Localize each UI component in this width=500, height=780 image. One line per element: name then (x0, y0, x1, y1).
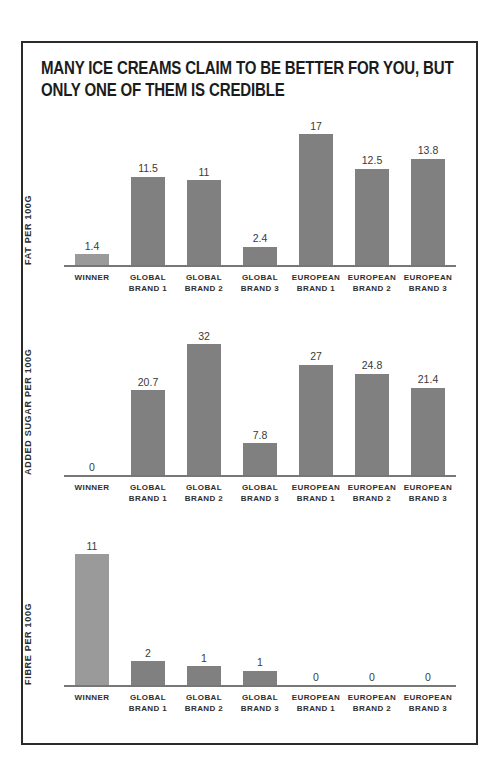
bar-slot: 17 (288, 113, 344, 265)
bar-slot: 13.8 (400, 113, 456, 265)
bar-slot: 27 (288, 323, 344, 475)
bar-value-label: 7.8 (253, 430, 268, 441)
bar-slot: 7.8 (232, 323, 288, 475)
bar-value-label: 27 (310, 351, 322, 362)
bar-slot: 20.7 (120, 323, 176, 475)
x-axis-category-label: GLOBALBRAND 3 (232, 477, 288, 517)
bar (299, 134, 333, 265)
x-axis-category-label: EUROPEANBRAND 2 (344, 267, 400, 307)
x-axis-category-label: WINNER (64, 477, 120, 517)
x-axis-category-label: EUROPEANBRAND 2 (344, 477, 400, 517)
y-axis-label: ADDED SUGAR PER 100G (23, 325, 33, 479)
bar-slot: 0 (400, 533, 456, 685)
x-axis-category-label: GLOBALBRAND 1 (120, 267, 176, 307)
bar-value-label: 0 (369, 672, 375, 683)
x-axis-labels: WINNERGLOBALBRAND 1GLOBALBRAND 2GLOBALBR… (64, 267, 456, 307)
bar-slot: 2 (120, 533, 176, 685)
bar (355, 374, 389, 475)
bar-value-label: 0 (313, 672, 319, 683)
poster-frame: MANY ICE CREAMS CLAIM TO BE BETTER FOR Y… (21, 41, 478, 745)
x-axis-category-label: GLOBALBRAND 2 (176, 267, 232, 307)
chart-fibre-per-100g: FIBRE PER 100G 11211000 WINNERGLOBALBRAN… (23, 527, 476, 733)
bar (411, 388, 445, 475)
bar-value-label: 24.8 (362, 360, 382, 371)
bar (243, 247, 277, 265)
bar-value-label: 21.4 (418, 374, 438, 385)
x-axis-category-label: EUROPEANBRAND 1 (288, 687, 344, 727)
bar-value-label: 11.5 (138, 163, 158, 174)
bar (243, 671, 277, 685)
bar-slot: 1.4 (64, 113, 120, 265)
bar (411, 159, 445, 265)
bar-slot: 0 (288, 533, 344, 685)
bar (131, 390, 165, 475)
bar-slot: 0 (64, 323, 120, 475)
bar-value-label: 1 (257, 657, 263, 668)
bar-value-label: 1.4 (85, 241, 100, 252)
bar-value-label: 13.8 (418, 145, 438, 156)
plot-area: 020.7327.82724.821.4 WINNERGLOBALBRAND 1… (64, 323, 456, 523)
bar (187, 344, 221, 475)
bar (75, 554, 109, 685)
bar (187, 666, 221, 685)
bar-value-label: 1 (201, 653, 207, 664)
bar (131, 661, 165, 685)
bar-slot: 1 (176, 533, 232, 685)
x-axis-category-label: GLOBALBRAND 1 (120, 477, 176, 517)
x-axis-category-label: EUROPEANBRAND 3 (400, 477, 456, 517)
bar-value-label: 32 (198, 331, 210, 342)
bar-slot: 0 (344, 533, 400, 685)
x-axis-category-label: EUROPEANBRAND 1 (288, 267, 344, 307)
y-axis-label: FAT PER 100G (23, 115, 33, 269)
bar-value-label: 0 (425, 672, 431, 683)
bar-value-label: 11 (199, 167, 210, 178)
bar (131, 177, 165, 265)
bar (299, 365, 333, 475)
bar-value-label: 0 (89, 462, 95, 473)
x-axis-category-label: EUROPEANBRAND 1 (288, 477, 344, 517)
x-axis-category-label: GLOBALBRAND 2 (176, 687, 232, 727)
x-axis-category-label: EUROPEANBRAND 3 (400, 687, 456, 727)
plot-area: 1.411.5112.41712.513.8 WINNERGLOBALBRAND… (64, 113, 456, 313)
chart-fat-per-100g: FAT PER 100G 1.411.5112.41712.513.8 WINN… (23, 107, 476, 313)
bar-group: 1.411.5112.41712.513.8 (64, 113, 456, 267)
x-axis-category-label: GLOBALBRAND 1 (120, 687, 176, 727)
x-axis-category-label: EUROPEANBRAND 2 (344, 687, 400, 727)
bar-value-label: 12.5 (362, 155, 382, 166)
bar-slot: 32 (176, 323, 232, 475)
x-axis-category-label: GLOBALBRAND 3 (232, 687, 288, 727)
bar-slot: 11 (64, 533, 120, 685)
bar-value-label: 2.4 (253, 233, 268, 244)
bar-value-label: 17 (310, 121, 322, 132)
chart-added-sugar-per-100g: ADDED SUGAR PER 100G 020.7327.82724.821.… (23, 317, 476, 523)
title-line-2: ONLY ONE OF THEM IS CREDIBLE (41, 79, 415, 101)
bar-value-label: 2 (145, 648, 151, 659)
plot-area: 11211000 WINNERGLOBALBRAND 1GLOBALBRAND … (64, 533, 456, 733)
title-line-1: MANY ICE CREAMS CLAIM TO BE BETTER FOR Y… (41, 57, 415, 79)
bar-slot: 2.4 (232, 113, 288, 265)
x-axis-labels: WINNERGLOBALBRAND 1GLOBALBRAND 2GLOBALBR… (64, 687, 456, 727)
x-axis-category-label: WINNER (64, 687, 120, 727)
bar-slot: 1 (232, 533, 288, 685)
bar (75, 254, 109, 265)
x-axis-category-label: GLOBALBRAND 3 (232, 267, 288, 307)
bar-group: 11211000 (64, 533, 456, 687)
bar (243, 443, 277, 475)
bar (187, 180, 221, 265)
bar-slot: 11.5 (120, 113, 176, 265)
bar-slot: 21.4 (400, 323, 456, 475)
x-axis-category-label: GLOBALBRAND 2 (176, 477, 232, 517)
bar-slot: 11 (176, 113, 232, 265)
bar-slot: 24.8 (344, 323, 400, 475)
x-axis-category-label: EUROPEANBRAND 3 (400, 267, 456, 307)
bar-group: 020.7327.82724.821.4 (64, 323, 456, 477)
page-title: MANY ICE CREAMS CLAIM TO BE BETTER FOR Y… (23, 43, 476, 101)
y-axis-label: FIBRE PER 100G (23, 535, 33, 689)
x-axis-labels: WINNERGLOBALBRAND 1GLOBALBRAND 2GLOBALBR… (64, 477, 456, 517)
x-axis-category-label: WINNER (64, 267, 120, 307)
bar-value-label: 11 (87, 541, 98, 552)
bar (355, 169, 389, 265)
bar-slot: 12.5 (344, 113, 400, 265)
bar-value-label: 20.7 (138, 377, 158, 388)
